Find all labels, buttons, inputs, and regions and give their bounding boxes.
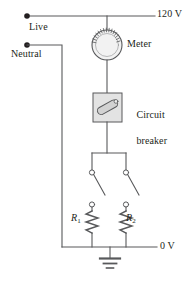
switch-right-lower-contact [123, 202, 128, 207]
circuit-diagram-figure: Live Neutral 120 V Meter Circuit breaker… [0, 0, 194, 282]
resistor-1-element [86, 211, 98, 233]
switch-right-blade [128, 175, 139, 196]
label-resistor-1: R1 [71, 212, 81, 227]
meter-body [92, 30, 122, 60]
label-neutral: Neutral [11, 48, 42, 59]
label-circuit-breaker-line1: Circuit [136, 109, 164, 120]
label-resistor-1-subscript: 1 [77, 217, 81, 225]
switch-left-blade [94, 175, 105, 196]
label-live: Live [29, 21, 48, 32]
switch-left-lower-contact [89, 202, 94, 207]
label-ground-voltage: 0 V [160, 240, 175, 251]
label-meter: Meter [127, 38, 151, 49]
label-resistor-2-subscript: 2 [132, 217, 136, 225]
label-circuit-breaker-line2: breaker [136, 135, 167, 146]
switch-left[interactable] [89, 170, 105, 207]
ground-symbol [100, 247, 120, 268]
label-circuit-breaker: Circuit breaker [126, 95, 167, 160]
label-resistor-2: R2 [126, 212, 136, 227]
neutral-conductor [27, 45, 62, 247]
live-terminal-dot [24, 13, 30, 19]
switch-right[interactable] [123, 170, 139, 207]
label-supply-voltage: 120 V [157, 8, 182, 19]
